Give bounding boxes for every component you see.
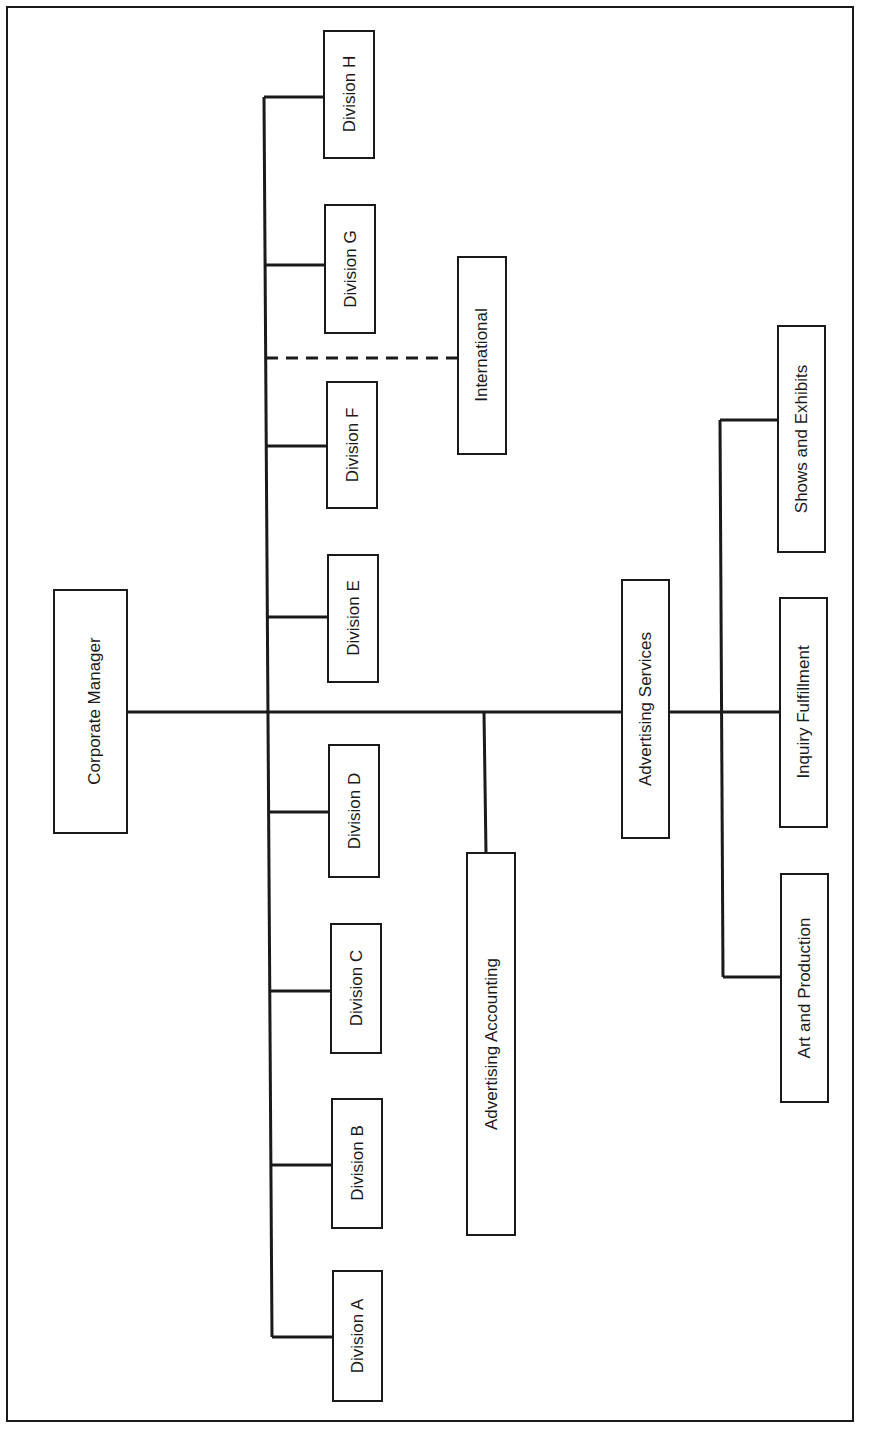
services-children-spine bbox=[720, 420, 723, 977]
node-label: Division B bbox=[348, 1125, 367, 1201]
node-division-h: Division H bbox=[324, 31, 374, 158]
node-label: Art and Production bbox=[795, 918, 814, 1059]
org-chart-canvas: Corporate Manager Division H Division G … bbox=[6, 4, 886, 1426]
node-label: Division H bbox=[340, 56, 359, 133]
node-label: Corporate Manager bbox=[85, 637, 104, 785]
node-label: International bbox=[472, 308, 491, 402]
node-label: Advertising Accounting bbox=[482, 958, 501, 1130]
node-division-a: Division A bbox=[333, 1271, 382, 1401]
node-division-f: Division F bbox=[327, 382, 377, 508]
node-label: Division C bbox=[347, 950, 366, 1027]
node-inquiry-fulfillment: Inquiry Fulfillment bbox=[780, 598, 827, 827]
node-label: Division D bbox=[345, 773, 364, 850]
org-chart-frame: Corporate Manager Division H Division G … bbox=[6, 4, 886, 1426]
connector-advertising-accounting bbox=[484, 712, 486, 853]
node-label: Division G bbox=[341, 230, 360, 307]
node-advertising-services: Advertising Services bbox=[622, 580, 669, 838]
node-art-and-production: Art and Production bbox=[781, 874, 828, 1102]
node-division-g: Division G bbox=[325, 205, 375, 333]
node-label: Division F bbox=[343, 408, 362, 483]
division-spine bbox=[264, 97, 272, 1337]
node-label: Division E bbox=[344, 580, 363, 656]
node-division-c: Division C bbox=[331, 924, 381, 1053]
node-advertising-accounting: Advertising Accounting bbox=[467, 853, 515, 1235]
node-label: Advertising Services bbox=[636, 632, 655, 786]
node-division-d: Division D bbox=[329, 745, 379, 877]
node-division-b: Division B bbox=[332, 1099, 382, 1228]
node-corporate-manager: Corporate Manager bbox=[54, 590, 127, 833]
page-border bbox=[7, 7, 853, 1421]
node-label: Division A bbox=[348, 1298, 367, 1373]
node-label: Inquiry Fulfillment bbox=[794, 645, 813, 778]
node-division-e: Division E bbox=[328, 555, 378, 682]
connector-lines bbox=[127, 97, 781, 1337]
node-shows-and-exhibits: Shows and Exhibits bbox=[778, 326, 825, 552]
node-label: Shows and Exhibits bbox=[792, 365, 811, 513]
node-international: International bbox=[458, 257, 506, 454]
